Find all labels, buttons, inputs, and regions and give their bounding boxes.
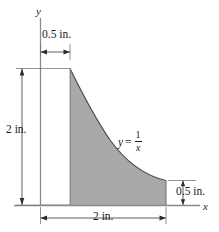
equation-fraction: 1 x xyxy=(135,130,142,153)
dim-left-arrow-bottom xyxy=(20,198,25,205)
dimension-label-right: 0.5 in. xyxy=(176,186,205,198)
white-offset-rectangle xyxy=(41,69,71,206)
equation-numerator: 1 xyxy=(135,130,142,140)
equation-denominator: x xyxy=(135,143,141,153)
dim-right-arrow-bottom xyxy=(181,199,185,205)
y-axis-label: y xyxy=(36,6,41,17)
dim-bottom-arrow-left xyxy=(41,216,48,221)
equation-equals-sign: = xyxy=(125,136,132,148)
equation-lhs: y xyxy=(118,136,123,148)
dim-top-arrow-left xyxy=(41,50,48,55)
dim-top-arrow-right xyxy=(64,50,71,55)
dimension-label-bottom: 2 in. xyxy=(93,211,113,223)
dimension-label-top: 0.5 in. xyxy=(42,29,71,41)
dim-bottom-arrow-right xyxy=(160,216,167,221)
dimension-label-left: 2 in. xyxy=(6,124,26,136)
curve-equation-label: y = 1 x xyxy=(118,130,142,153)
dim-left-arrow-top xyxy=(20,69,25,76)
x-axis-label: x xyxy=(203,201,208,212)
